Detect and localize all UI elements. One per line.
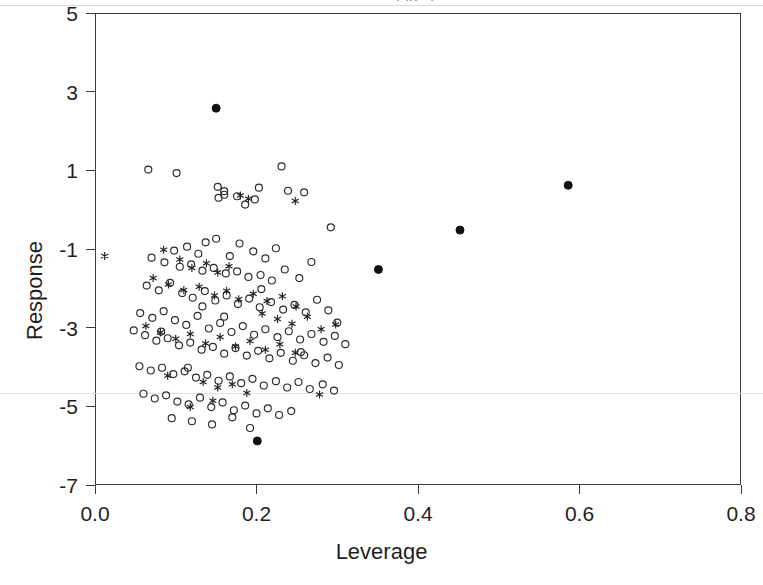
data-point-open	[342, 341, 349, 348]
data-point-open	[228, 328, 235, 335]
data-point-asterisk	[214, 383, 221, 391]
data-point-open	[325, 307, 332, 314]
data-point-open	[262, 255, 269, 262]
data-point-open	[148, 254, 155, 261]
data-point-open	[308, 258, 315, 265]
data-point-filled	[212, 104, 220, 112]
y-tick-4	[86, 327, 95, 328]
data-point-open	[297, 336, 304, 343]
data-point-asterisk	[279, 292, 286, 300]
y-tick-label-1: 3	[33, 81, 78, 102]
data-point-open	[230, 407, 237, 414]
data-point-open	[276, 411, 283, 418]
data-point-asterisk	[332, 321, 339, 329]
data-point-asterisk	[160, 246, 167, 254]
data-point-open	[306, 386, 313, 393]
data-point-open	[195, 250, 202, 257]
data-point-open	[296, 275, 303, 282]
data-point-open	[319, 381, 326, 388]
x-tick-label-2: 0.4	[403, 503, 432, 524]
data-point-open	[239, 323, 246, 330]
data-point-open	[196, 394, 203, 401]
data-point-open	[277, 349, 284, 356]
data-point-open	[284, 384, 291, 391]
y-tick-6	[86, 485, 95, 486]
data-point-open	[192, 374, 199, 381]
data-point-open	[199, 267, 206, 274]
data-point-open	[174, 398, 181, 405]
data-point-open	[327, 224, 334, 231]
data-point-open	[205, 325, 212, 332]
data-point-open	[145, 166, 152, 173]
data-point-open	[331, 332, 338, 339]
data-point-open	[202, 239, 209, 246]
data-point-open	[324, 354, 331, 361]
data-point-open	[147, 367, 154, 374]
data-point-open	[212, 297, 219, 304]
data-point-open	[302, 309, 309, 316]
data-point-asterisk	[203, 259, 210, 267]
y-tick-label-5: -5	[33, 396, 78, 417]
data-point-open	[268, 277, 275, 284]
data-point-filled	[564, 181, 572, 189]
data-point-asterisk	[232, 343, 239, 351]
x-tick-label-0: 0.0	[80, 503, 109, 524]
data-point-asterisk	[101, 252, 108, 260]
data-point-asterisk	[274, 315, 281, 323]
data-point-open	[258, 286, 265, 293]
data-point-asterisk	[250, 290, 257, 298]
data-point-open	[314, 296, 321, 303]
data-point-open	[183, 321, 190, 328]
x-axis-title: Leverage	[0, 539, 763, 565]
data-point-asterisk	[304, 313, 311, 321]
data-point-open	[320, 338, 327, 345]
data-point-asterisk	[142, 322, 149, 330]
data-point-open	[236, 240, 243, 247]
data-point-open	[219, 399, 226, 406]
data-point-open	[136, 363, 143, 370]
data-point-open	[331, 387, 338, 394]
data-point-open	[142, 332, 149, 339]
data-point-open	[301, 189, 308, 196]
data-point-asterisk	[229, 380, 236, 388]
data-point-filled	[253, 437, 261, 445]
data-point-open	[221, 313, 228, 320]
data-point-asterisk	[293, 302, 300, 310]
data-point-open	[246, 295, 253, 302]
data-point-asterisk	[318, 325, 325, 333]
x-tick-1	[256, 485, 257, 494]
y-tick-0	[86, 13, 95, 14]
data-point-open	[159, 364, 166, 371]
data-point-open	[215, 377, 222, 384]
data-point-open	[204, 371, 211, 378]
data-point-open	[253, 410, 260, 417]
data-point-open	[308, 330, 315, 337]
data-point-open	[274, 334, 281, 341]
data-point-open	[173, 170, 180, 177]
data-point-open	[130, 327, 137, 334]
data-point-open	[285, 328, 292, 335]
data-points-layer	[0, 0, 763, 585]
data-point-open	[188, 418, 195, 425]
data-point-open	[222, 270, 229, 277]
data-point-open	[171, 247, 178, 254]
x-tick-label-3: 0.6	[565, 503, 594, 524]
y-tick-3	[86, 249, 95, 250]
data-point-open	[161, 259, 168, 266]
y-axis-title: Response	[22, 241, 48, 340]
data-point-open	[255, 184, 262, 191]
data-point-open	[250, 248, 257, 255]
data-point-open	[213, 235, 220, 242]
data-point-open	[255, 347, 262, 354]
data-point-open	[245, 273, 252, 280]
data-point-asterisk	[292, 197, 299, 205]
data-point-open	[143, 282, 150, 289]
data-point-open	[242, 402, 249, 409]
data-point-open	[175, 342, 182, 349]
data-point-open	[209, 343, 216, 350]
data-point-open	[272, 378, 279, 385]
x-tick-3	[579, 485, 580, 494]
data-point-open	[242, 201, 249, 208]
data-point-asterisk	[264, 297, 271, 305]
y-tick-label-0: 5	[33, 3, 78, 24]
